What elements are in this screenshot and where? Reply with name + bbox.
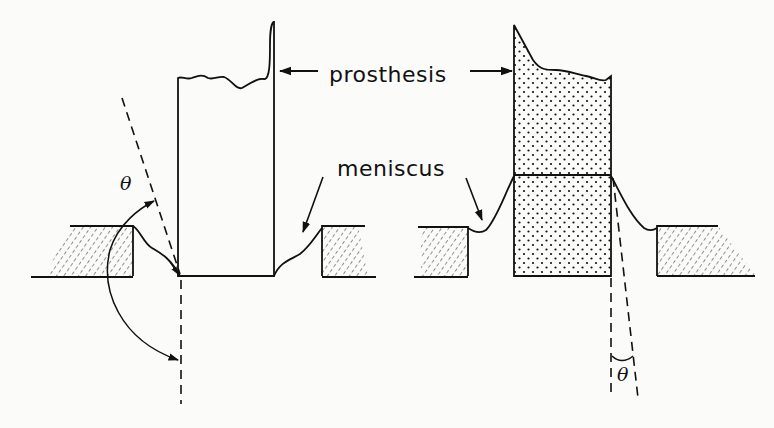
left-substrate-block-b (322, 226, 368, 276)
left-angle-arc (108, 201, 178, 360)
left-panel (31, 22, 376, 404)
right-angle-arc (612, 356, 633, 361)
diagram-canvas: prosthesis meniscus θ θ (0, 0, 774, 428)
right-substrate-block-a (421, 228, 468, 276)
right-meniscus-left (468, 176, 514, 232)
meniscus-arrow-left (303, 177, 323, 232)
meniscus-arrow-right (466, 178, 482, 220)
theta-label-left: θ (120, 172, 131, 194)
right-panel (414, 25, 756, 398)
theta-label-right: θ (617, 363, 628, 385)
right-substrate-block-b (657, 226, 756, 276)
left-meniscus-left (133, 226, 180, 276)
prosthesis-label: prosthesis (329, 62, 447, 87)
left-substrate-block-a (45, 226, 133, 276)
meniscus-label: meniscus (337, 156, 445, 181)
left-prosthesis (178, 22, 274, 276)
left-meniscus-right (274, 228, 322, 276)
right-meniscus-right (611, 176, 657, 230)
right-prosthesis (514, 25, 611, 276)
